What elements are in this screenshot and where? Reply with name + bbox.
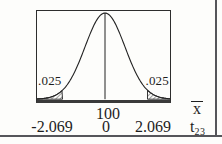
right-rejection-region [148,90,171,99]
scanned-figure-page: .025 .025 100 -2.069 0 2.069 x t23 [0,0,222,144]
xbar-overbar: x [191,101,203,115]
t-critical-right-label: 2.069 [113,119,193,134]
distribution-plot-box: .025 .025 [36,10,171,103]
t-symbol-df-subscript: 23 [194,126,205,137]
right-tail-area-label: .025 [145,74,169,87]
xbar-axis-symbol: x [187,101,207,116]
t-distribution-symbol: t23 [190,119,218,137]
page-border-horizontal-rule [0,135,222,137]
left-rejection-region [37,91,63,100]
left-tail-area-label: .025 [38,74,62,87]
page-border-vertical-rule [215,0,217,137]
